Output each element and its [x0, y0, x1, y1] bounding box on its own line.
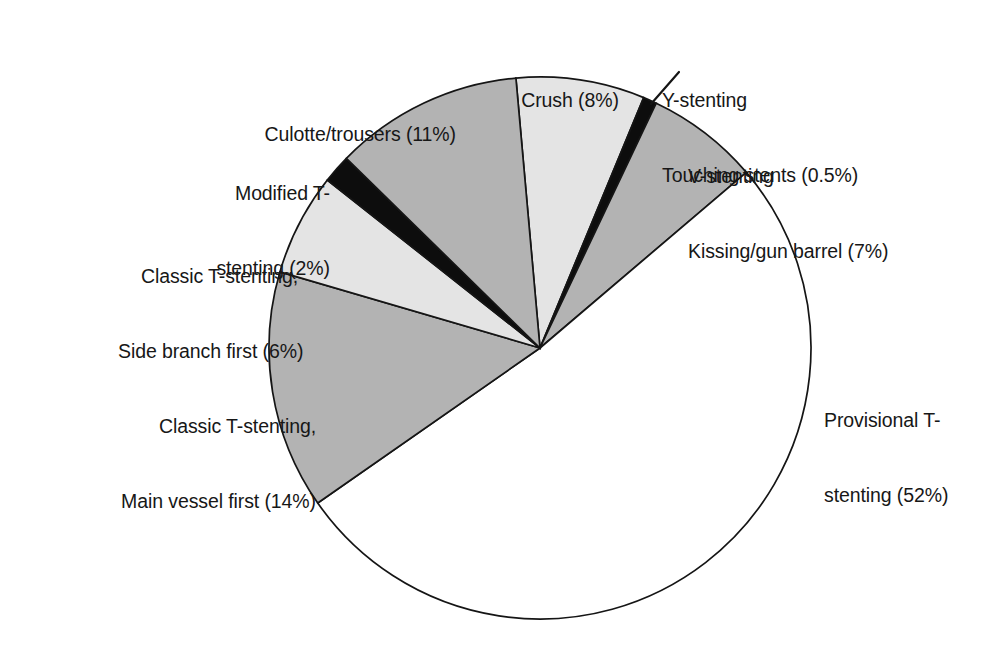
pie-label-classic-side-line1: Classic T-stenting,: [118, 264, 298, 289]
pie-label-crush-line1: Crush (8%): [500, 88, 640, 113]
pie-label-v-stenting-line1: V-stenting: [688, 164, 988, 189]
pie-chart-figure: Culotte/trousers (11%) Crush (8%) Y-sten…: [0, 0, 992, 658]
pie-label-y-stenting-line1: Y-stenting: [662, 88, 982, 113]
pie-label-modified-t-line1: Modified T-: [196, 181, 330, 206]
pie-label-provisional-line1: Provisional T-: [824, 408, 984, 433]
pie-label-provisional-line2: stenting (52%): [824, 483, 984, 508]
pie-label-classic-t-main-vessel: Classic T-stenting, Main vessel first (1…: [76, 364, 316, 564]
pie-label-crush: Crush (8%): [500, 38, 640, 163]
pie-label-provisional-t-stenting: Provisional T- stenting (52%): [824, 358, 984, 558]
pie-label-classic-side-line2: Side branch first (6%): [118, 339, 298, 364]
pie-label-v-stenting: V-stenting Kissing/gun barrel (7%): [688, 114, 988, 314]
pie-label-classic-main-line2: Main vessel first (14%): [76, 489, 316, 514]
pie-label-v-stenting-line2: Kissing/gun barrel (7%): [688, 239, 988, 264]
pie-label-classic-main-line1: Classic T-stenting,: [76, 414, 316, 439]
